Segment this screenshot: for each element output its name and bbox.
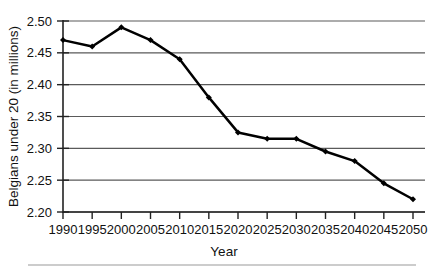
- x-axis-tick-label: 2035: [311, 222, 340, 237]
- x-axis-tick-label: 2025: [253, 222, 282, 237]
- line-chart-figure: 2.202.252.302.352.402.452.50199019952000…: [0, 0, 444, 270]
- x-axis-title: Year: [210, 244, 238, 259]
- y-axis-tick-label: 2.30: [27, 141, 52, 156]
- y-axis-tick-label: 2.50: [27, 14, 52, 29]
- data-point-marker: 1990: 2.47: [60, 37, 66, 43]
- x-axis-tick-label: 2045: [369, 222, 398, 237]
- x-axis-tick-label: 2010: [165, 222, 194, 237]
- y-axis-tick-label: 2.20: [27, 205, 52, 220]
- x-ticks-group: 1990199520002005201020152020202520302035…: [49, 212, 428, 237]
- x-axis-tick-label: 1990: [49, 222, 78, 237]
- x-axis-tick-label: 2040: [340, 222, 369, 237]
- y-axis-tick-label: 2.45: [27, 45, 52, 60]
- x-axis-tick-label: 2030: [282, 222, 311, 237]
- x-axis-tick-label: 2000: [107, 222, 136, 237]
- x-axis-tick-label: 1995: [78, 222, 107, 237]
- chart-plot-area: 2.202.252.302.352.402.452.50199019952000…: [0, 0, 444, 270]
- y-axis-title: Belgians under 20 (in millions): [6, 26, 21, 207]
- y-axis-tick-label: 2.40: [27, 77, 52, 92]
- x-axis-tick-label: 2050: [399, 222, 428, 237]
- data-point-marker: 2025: 2.315: [264, 136, 270, 142]
- x-axis-tick-label: 2015: [194, 222, 223, 237]
- x-axis-tick-label: 2020: [224, 222, 253, 237]
- data-points-group: 1990: 2.471995: 2.462000: 2.492005: 2.47…: [60, 24, 416, 202]
- y-axis-tick-label: 2.35: [27, 109, 52, 124]
- x-axis-tick-label: 2005: [136, 222, 165, 237]
- y-axis-tick-label: 2.25: [27, 173, 52, 188]
